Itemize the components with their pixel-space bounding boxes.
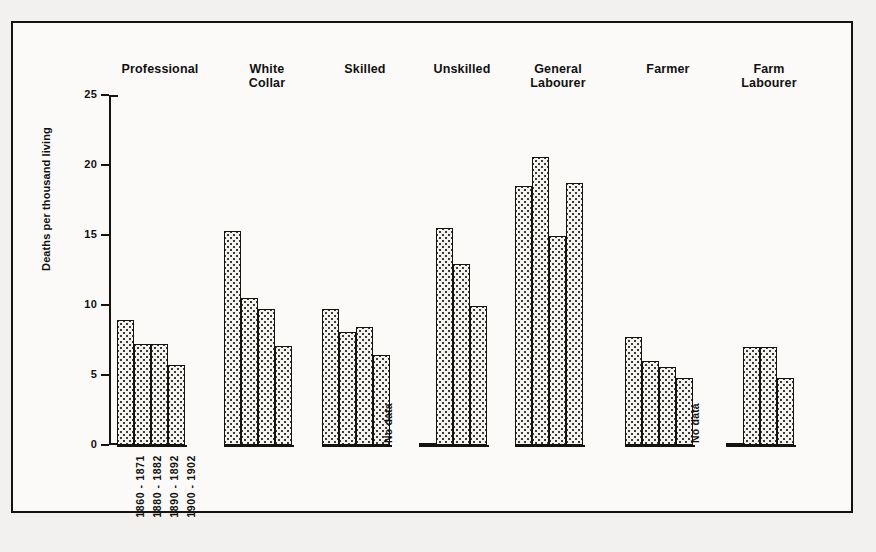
group-baseline	[726, 445, 796, 447]
y-axis-tick-label-text: 5	[67, 369, 97, 379]
chart-figure: 0510152025 Deaths per thousand living Pr…	[11, 21, 853, 513]
bar-group: Farm LabourerNo data	[726, 63, 812, 483]
bar-group: General Labourer	[515, 63, 601, 483]
group-baseline	[625, 445, 695, 447]
bar[interactable]	[322, 309, 339, 445]
bar[interactable]	[470, 306, 487, 445]
group-baseline	[224, 445, 294, 447]
y-axis-tick-label: 15	[61, 229, 97, 239]
bar-group-label: White Collar	[224, 63, 310, 90]
bar[interactable]	[453, 264, 470, 445]
y-axis-tick	[101, 234, 109, 236]
bar[interactable]	[549, 236, 566, 445]
bar-list	[117, 95, 203, 445]
bar[interactable]	[743, 347, 760, 445]
bar-group-plot: No data	[726, 95, 812, 445]
y-axis-tick-label-text: 25	[67, 89, 97, 99]
period-label: 1880 - 1882	[141, 455, 158, 547]
bar-group: Skilled	[322, 63, 408, 483]
y-axis-tick-label: 20	[61, 159, 97, 169]
y-axis-tick-label-text: 0	[67, 439, 97, 449]
bar-list	[322, 95, 408, 445]
bar-list: No data	[726, 95, 812, 445]
bar-list: No data	[419, 95, 505, 445]
bar-group: White Collar	[224, 63, 310, 483]
bar[interactable]	[356, 327, 373, 445]
bar-group-plot	[322, 95, 408, 445]
bar[interactable]	[151, 344, 168, 445]
y-axis-tick	[101, 374, 109, 376]
group-baseline	[419, 445, 489, 447]
period-label: 1890 - 1892	[158, 455, 175, 547]
bar-group-label: General Labourer	[515, 63, 601, 90]
y-axis-tick-label: 25	[61, 89, 97, 99]
bar[interactable]	[134, 344, 151, 445]
y-axis-title: Deaths per thousand living	[40, 104, 52, 294]
period-label-text: 1900 - 1902	[185, 455, 197, 547]
y-axis-tick-label-text: 10	[67, 299, 97, 309]
bar[interactable]	[777, 378, 794, 445]
bar[interactable]	[436, 228, 453, 445]
y-axis-tick-label-text: 20	[67, 159, 97, 169]
bar-group-label: Skilled	[322, 63, 408, 77]
bar-group: UnskilledNo data	[419, 63, 505, 483]
bar[interactable]	[515, 186, 532, 445]
bar[interactable]	[566, 183, 583, 445]
bar-group-label: Professional	[117, 63, 203, 77]
bar[interactable]	[659, 367, 676, 445]
period-axis-labels: 1860 - 18711880 - 18821890 - 18921900 - …	[124, 455, 192, 547]
y-axis-tick	[101, 94, 109, 96]
bar[interactable]	[168, 365, 185, 445]
bar-group-label: Farm Labourer	[726, 63, 812, 90]
bar-group-label: Unskilled	[419, 63, 505, 77]
bar-group-plot	[515, 95, 601, 445]
bar-list	[224, 95, 310, 445]
y-axis-tick-label: 5	[61, 369, 97, 379]
bar-group-label: Farmer	[625, 63, 711, 77]
group-baseline	[515, 445, 585, 447]
bar-group-plot: No data	[419, 95, 505, 445]
no-data-label: No data	[382, 373, 394, 443]
bar[interactable]	[224, 231, 241, 445]
bar[interactable]	[241, 298, 258, 445]
bar-list	[515, 95, 601, 445]
group-baseline	[322, 445, 392, 447]
period-label: 1860 - 1871	[124, 455, 141, 547]
no-data-label: No data	[689, 373, 701, 443]
no-data-marker: No data	[726, 325, 743, 445]
bar-group-plot	[117, 95, 203, 445]
period-label: 1900 - 1902	[175, 455, 192, 547]
bar-group: Professional	[117, 63, 203, 483]
bar[interactable]	[258, 309, 275, 445]
bar[interactable]	[625, 337, 642, 445]
no-data-marker: No data	[419, 325, 436, 445]
y-axis-tick-label: 10	[61, 299, 97, 309]
bar[interactable]	[339, 332, 356, 445]
y-axis-tick-label: 0	[61, 439, 97, 449]
bar[interactable]	[275, 346, 292, 445]
bar[interactable]	[760, 347, 777, 445]
bar[interactable]	[117, 320, 134, 445]
bar[interactable]	[642, 361, 659, 445]
y-axis-line	[109, 95, 111, 445]
group-baseline	[117, 445, 187, 447]
bar-group-plot	[224, 95, 310, 445]
y-axis-tick	[101, 164, 109, 166]
y-axis-tick	[101, 444, 109, 446]
y-axis-tick-label-text: 15	[67, 229, 97, 239]
y-axis-tick	[101, 304, 109, 306]
bar[interactable]	[532, 157, 549, 445]
